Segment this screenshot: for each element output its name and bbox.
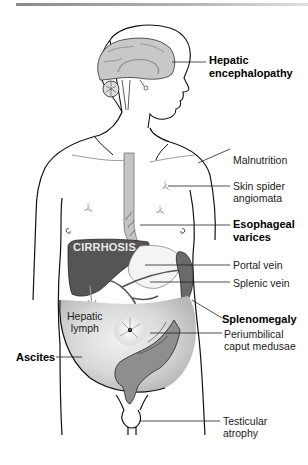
label-skin-spider-angiomata: Skin spider angiomata xyxy=(233,180,285,204)
nipple-left xyxy=(66,229,70,234)
label-malnutrition: Malnutrition xyxy=(233,154,287,166)
label-portal-vein: Portal vein xyxy=(233,259,283,271)
esophagus xyxy=(124,153,140,248)
nipple-right xyxy=(181,229,185,234)
label-splenic-vein: Splenic vein xyxy=(233,277,290,289)
cirrhosis-organ-label: CIRRHOSIS xyxy=(73,241,136,253)
label-esophageal-varices: Esophageal varices xyxy=(233,218,295,243)
label-periumbilical-caput-medusae: Periumbilical caput medusae xyxy=(224,328,296,352)
hepatic-lymph-label: Hepatic lymph xyxy=(67,310,103,334)
label-hepatic-encephalopathy: Hepatic encephalopathy xyxy=(209,54,293,79)
label-ascites: Ascites xyxy=(16,351,55,364)
label-splenomegaly: Splenomegaly xyxy=(222,313,297,326)
spleen xyxy=(176,252,193,304)
caput-medusae xyxy=(114,314,146,346)
label-testicular-atrophy: Testicular atrophy xyxy=(223,415,267,439)
